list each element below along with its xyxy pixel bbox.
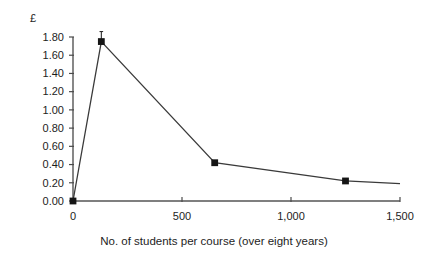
y-axis-tick-labels: 0.000.200.400.600.801.001.201.401.601.80	[43, 31, 64, 207]
x-tick-label: 1,500	[386, 210, 414, 222]
data-point-marker	[70, 198, 77, 205]
x-tick-label: 500	[173, 210, 191, 222]
series-line	[73, 42, 400, 201]
top-crop-edge	[0, 0, 428, 3]
y-tick-label: 0.40	[43, 158, 64, 170]
y-tick-label: 0.20	[43, 177, 64, 189]
x-tick-label: 0	[70, 210, 76, 222]
y-tick-label: 1.20	[43, 85, 64, 97]
y-tick-label: 1.00	[43, 104, 64, 116]
y-tick-label: 1.60	[43, 49, 64, 61]
y-tick-label: 1.40	[43, 67, 64, 79]
data-point-marker	[342, 178, 349, 185]
data-point-marker	[98, 38, 105, 45]
y-tick-label: 0.00	[43, 195, 64, 207]
data-series	[73, 42, 400, 201]
x-axis-tick-labels: 05001,0001,500	[70, 210, 414, 222]
y-axis-title: £	[30, 12, 36, 24]
data-markers	[70, 38, 349, 204]
x-axis-caption: No. of students per course (over eight y…	[100, 235, 328, 247]
y-tick-label: 0.80	[43, 122, 64, 134]
y-tick-label: 1.80	[43, 31, 64, 43]
y-tick-label: 0.60	[43, 140, 64, 152]
chart-page: £ 0.000.200.400.600.801.001.201.401.601.…	[0, 0, 428, 257]
x-tick-label: 1,000	[277, 210, 305, 222]
line-chart: £ 0.000.200.400.600.801.001.201.401.601.…	[0, 0, 428, 257]
data-point-marker	[211, 159, 218, 166]
